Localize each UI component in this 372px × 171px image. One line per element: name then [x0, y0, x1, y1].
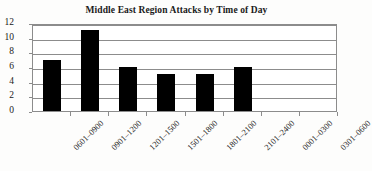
bar: [157, 74, 175, 111]
y-axis-tick-mark: [29, 112, 32, 113]
y-axis-tick-label-text: 12: [5, 17, 15, 27]
x-axis-tick-label: 2101–2400: [262, 118, 296, 152]
gridline: [33, 40, 336, 41]
y-axis-tick-label-text: 10: [5, 32, 15, 42]
gridline: [33, 25, 336, 26]
x-axis-tick-label: 0001–0300: [300, 118, 334, 152]
y-axis-tick-label-text: 4: [9, 76, 14, 86]
bar: [43, 60, 61, 111]
x-axis-tick-mark: [108, 112, 109, 116]
bar: [81, 30, 99, 111]
x-axis-tick-label: 1501–1800: [186, 118, 220, 152]
bar: [119, 67, 137, 111]
y-axis-tick-label-text: 6: [9, 61, 14, 71]
y-axis-tick-label-text: 0: [9, 105, 14, 115]
x-axis-tick-label: 0901–1200: [109, 118, 143, 152]
x-axis-tick-mark: [299, 112, 300, 116]
gridline: [33, 84, 336, 85]
x-axis-tick-label: 1801–2100: [224, 118, 258, 152]
x-axis-tick-label: 0301–0600: [338, 118, 372, 152]
x-axis-tick-mark: [70, 112, 71, 116]
gridline: [33, 98, 336, 99]
x-axis-tick-mark: [337, 112, 338, 116]
plot-area: [32, 24, 337, 112]
gridline: [33, 54, 336, 55]
x-axis-tick-mark: [146, 112, 147, 116]
bar: [234, 67, 252, 111]
gridline: [33, 69, 336, 70]
chart-title: Middle East Region Attacks by Time of Da…: [0, 5, 353, 15]
y-axis-tick-label-text: 2: [9, 90, 14, 100]
y-axis-tick-label-text: 8: [9, 46, 14, 56]
x-axis-tick-mark: [185, 112, 186, 116]
x-axis-tick-mark: [223, 112, 224, 116]
bar: [196, 74, 214, 111]
x-axis-tick-label: 0601–0900: [71, 118, 105, 152]
x-axis-tick-mark: [261, 112, 262, 116]
x-axis-tick-label: 1201–1500: [148, 118, 182, 152]
